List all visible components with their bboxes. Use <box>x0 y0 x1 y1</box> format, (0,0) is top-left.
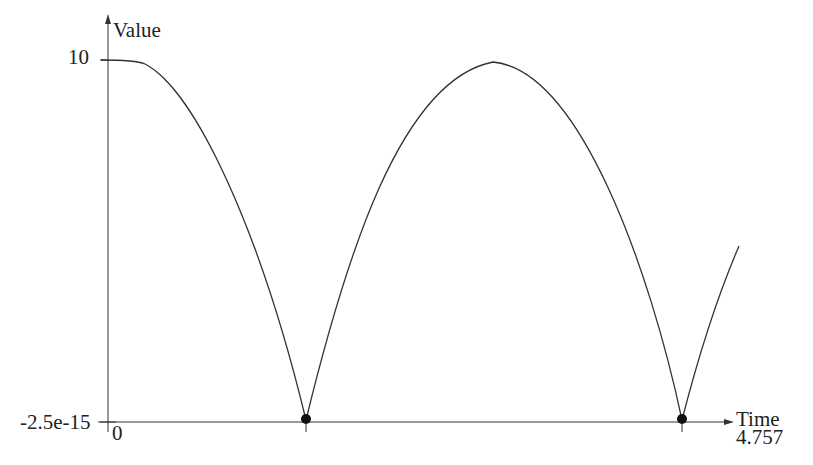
x-axis-arrow-icon <box>724 419 734 425</box>
y-tick-label-min: -2.5e-15 <box>20 412 91 433</box>
y-axis-title: Value <box>113 20 161 41</box>
bounce-marker-1 <box>301 414 311 424</box>
y-tick-label-max: 10 <box>68 47 89 68</box>
x-tick-label-max: 4.757 <box>736 427 783 448</box>
chart-canvas <box>0 0 813 465</box>
y-axis-arrow-icon <box>105 14 111 24</box>
x-tick-label-min: 0 <box>112 423 123 444</box>
value-curve <box>101 60 739 420</box>
bounce-marker-2 <box>677 414 687 424</box>
